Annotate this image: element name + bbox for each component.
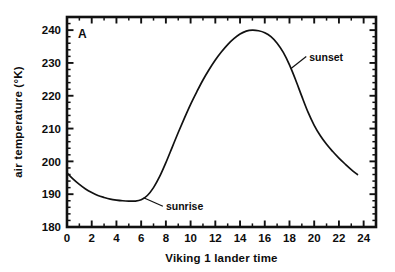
y-tick-label: 200 [42, 156, 61, 168]
x-axis-tick-labels: 024681012141618202224 [64, 232, 371, 244]
y-tick-label: 210 [42, 123, 61, 135]
y-tick-label: 180 [42, 221, 61, 233]
major-ticks [67, 17, 376, 227]
x-tick-label: 4 [113, 232, 120, 244]
x-tick-label: 16 [258, 232, 271, 244]
x-tick-label: 8 [163, 232, 170, 244]
panel-label: A [78, 27, 87, 41]
x-tick-label: 2 [89, 232, 95, 244]
x-tick-label: 24 [357, 232, 370, 244]
annotation-leader-line [291, 57, 307, 69]
x-axis-title: Viking 1 lander time [165, 252, 277, 264]
x-tick-label: 22 [333, 232, 346, 244]
y-axis-title: air temperature (°K) [12, 66, 24, 178]
y-tick-label: 230 [42, 57, 61, 69]
y-tick-label: 220 [42, 90, 61, 102]
annotation-layer: sunrisesunset [144, 51, 344, 213]
x-tick-label: 6 [138, 232, 144, 244]
minor-ticks [67, 17, 376, 227]
x-tick-label: 0 [64, 232, 70, 244]
axes-frame [67, 17, 376, 227]
y-tick-label: 190 [42, 188, 61, 200]
y-axis-tick-labels: 180190200210220230240 [42, 24, 61, 233]
y-tick-label: 240 [42, 24, 61, 36]
x-tick-label: 14 [234, 232, 247, 244]
figure-panel: 024681012141618202224 180190200210220230… [0, 0, 395, 272]
temperature-line-chart: 024681012141618202224 180190200210220230… [0, 0, 395, 272]
x-tick-label: 10 [184, 232, 197, 244]
x-tick-label: 12 [209, 232, 222, 244]
annotation-leader-line [144, 198, 163, 206]
annotation-label: sunrise [166, 200, 204, 212]
x-tick-label: 18 [283, 232, 296, 244]
x-tick-label: 20 [308, 232, 321, 244]
annotation-label: sunset [309, 51, 343, 63]
panel-label-text: A [78, 27, 87, 41]
